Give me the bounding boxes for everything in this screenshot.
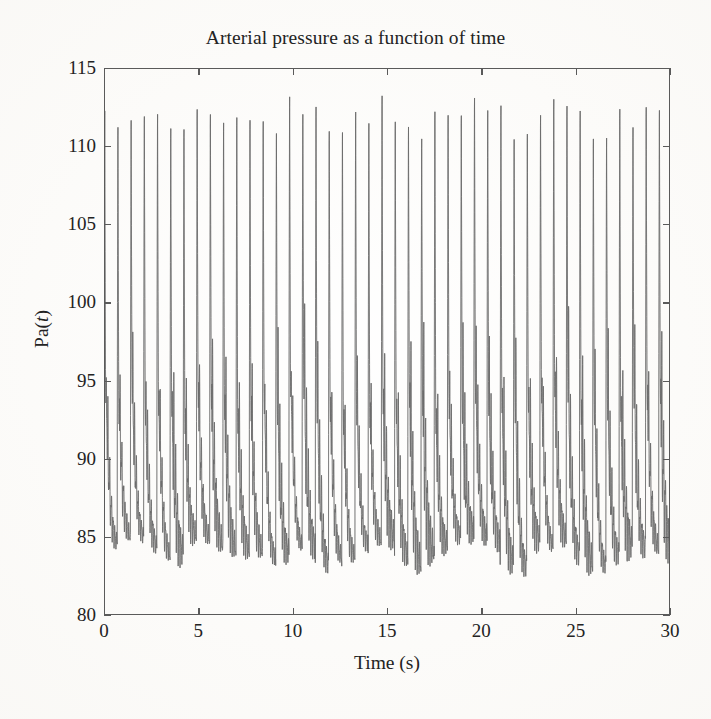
y-tick-mark (663, 381, 670, 382)
y-tick-label: 90 (77, 448, 96, 470)
x-tick-label: 5 (194, 620, 204, 642)
y-tick-mark (663, 68, 670, 69)
x-tick-mark (387, 68, 388, 75)
x-tick-label: 10 (283, 620, 302, 642)
y-tick-label: 105 (68, 213, 97, 235)
x-tick-mark (293, 608, 294, 615)
x-axis-label: Time (s) (104, 652, 670, 674)
x-tick-mark (670, 68, 671, 75)
y-tick-mark (663, 146, 670, 147)
y-axis-label-prefix: Pa( (31, 322, 52, 348)
x-tick-mark (481, 608, 482, 615)
y-tick-label: 85 (77, 526, 96, 548)
x-tick-mark (576, 68, 577, 75)
y-tick-mark (663, 459, 670, 460)
x-tick-label: 20 (472, 620, 491, 642)
plot-area (104, 68, 670, 615)
y-axis-label-variable: t (31, 317, 52, 322)
x-tick-mark (670, 608, 671, 615)
y-tick-label: 100 (68, 291, 97, 313)
x-tick-mark (576, 608, 577, 615)
x-tick-label: 25 (566, 620, 585, 642)
y-tick-mark (104, 381, 111, 382)
y-tick-mark (663, 302, 670, 303)
y-tick-mark (104, 459, 111, 460)
x-tick-mark (481, 68, 482, 75)
x-tick-label: 30 (661, 620, 680, 642)
figure-canvas: Arterial pressure as a function of time … (0, 0, 711, 719)
y-tick-mark (104, 68, 111, 69)
y-tick-mark (663, 537, 670, 538)
chart-title: Arterial pressure as a function of time (0, 27, 711, 49)
x-tick-mark (198, 68, 199, 75)
x-tick-mark (104, 608, 105, 615)
plot-frame-border (104, 68, 670, 615)
y-tick-mark (104, 224, 111, 225)
y-tick-mark (104, 302, 111, 303)
y-tick-mark (104, 146, 111, 147)
y-tick-mark (663, 224, 670, 225)
x-tick-mark (387, 608, 388, 615)
y-axis-label: Pa(t) (31, 269, 53, 389)
y-tick-mark (663, 615, 670, 616)
y-tick-label: 95 (77, 370, 96, 392)
y-tick-label: 80 (77, 604, 96, 626)
y-tick-label: 110 (68, 135, 96, 157)
y-tick-mark (104, 537, 111, 538)
y-tick-label: 115 (68, 57, 96, 79)
x-tick-mark (293, 68, 294, 75)
x-tick-mark (198, 608, 199, 615)
y-axis-label-suffix: ) (31, 310, 52, 317)
x-tick-label: 0 (99, 620, 109, 642)
y-tick-mark (104, 615, 111, 616)
x-tick-label: 15 (378, 620, 397, 642)
